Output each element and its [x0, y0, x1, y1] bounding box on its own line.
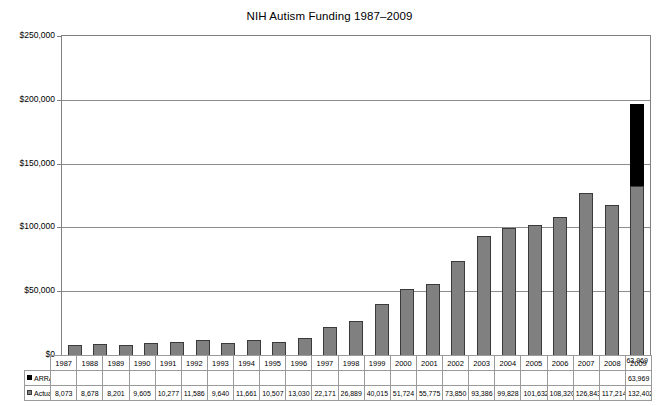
bar-segment-actual[interactable]	[144, 343, 158, 355]
table-cell-arra	[573, 371, 599, 386]
bar-segment-actual[interactable]	[426, 284, 440, 355]
y-axis-tick-label: $150,000	[0, 158, 55, 168]
bar-segment-actual[interactable]	[579, 193, 593, 355]
table-cell-arra	[521, 371, 547, 386]
table-cell-year: 1991	[155, 356, 181, 371]
bar-segment-actual[interactable]	[323, 327, 337, 355]
table-cell-actual: 99,828	[495, 386, 521, 401]
table-cell-actual: 10,507	[260, 386, 286, 401]
bar-slot	[215, 36, 241, 355]
bar-segment-actual[interactable]	[119, 345, 133, 355]
bar-2007[interactable]	[579, 193, 593, 355]
actual-swatch-icon	[27, 390, 32, 395]
bar-segment-actual[interactable]	[93, 344, 107, 355]
bar-1994[interactable]	[247, 340, 261, 355]
chart-container: NIH Autism Funding 1987–2009 63,969 $0$5…	[0, 0, 659, 406]
bar-2000[interactable]	[400, 289, 414, 355]
arra-swatch-icon	[27, 375, 32, 380]
bar-1991[interactable]	[170, 342, 184, 355]
bar-slot	[497, 36, 523, 355]
bar-2001[interactable]	[426, 284, 440, 355]
bar-1993[interactable]	[221, 343, 235, 355]
plot-area: 63,969	[61, 35, 651, 355]
bar-segment-actual[interactable]	[605, 205, 619, 355]
bar-slot	[139, 36, 165, 355]
bar-slot	[318, 36, 344, 355]
bar-segment-actual[interactable]	[221, 343, 235, 355]
bar-slot	[343, 36, 369, 355]
bar-1988[interactable]	[93, 344, 107, 355]
table-cell-arra	[599, 371, 625, 386]
bar-slot	[241, 36, 267, 355]
table-cell-year: 2009	[625, 356, 651, 371]
table-cell-year: 1993	[207, 356, 233, 371]
bar-segment-actual[interactable]	[477, 236, 491, 355]
bar-segment-actual[interactable]	[68, 345, 82, 355]
legend-label-arra: ARRA	[25, 371, 51, 386]
table-cell-arra	[338, 371, 364, 386]
bar-1996[interactable]	[298, 338, 312, 355]
table-cell-arra	[129, 371, 155, 386]
table-cell-actual: 9,640	[207, 386, 233, 401]
table-cell-arra	[51, 371, 77, 386]
table-cell-arra	[155, 371, 181, 386]
bar-segment-actual[interactable]	[553, 217, 567, 355]
bar-1997[interactable]	[323, 327, 337, 355]
bar-2005[interactable]	[528, 225, 542, 355]
bar-segment-actual[interactable]	[247, 340, 261, 355]
bar-segment-actual[interactable]	[375, 304, 389, 355]
bar-segment-arra[interactable]	[630, 104, 644, 186]
table-cell-actual: 9,605	[129, 386, 155, 401]
table-cell-actual: 93,386	[469, 386, 495, 401]
bar-2008[interactable]	[605, 205, 619, 355]
bar-1999[interactable]	[375, 304, 389, 355]
bar-segment-actual[interactable]	[630, 186, 644, 355]
bar-2006[interactable]	[553, 217, 567, 355]
bar-segment-actual[interactable]	[451, 261, 465, 355]
bar-segment-actual[interactable]	[272, 342, 286, 355]
table-cell-year: 2007	[573, 356, 599, 371]
bar-2009[interactable]: 63,969	[630, 104, 644, 355]
bar-1990[interactable]	[144, 343, 158, 355]
bar-1989[interactable]	[119, 345, 133, 355]
bar-2004[interactable]	[502, 228, 516, 355]
table-cell-year: 2000	[390, 356, 416, 371]
actual-label-text: Actual	[34, 390, 51, 397]
table-cell-year: 1994	[234, 356, 260, 371]
bar-slot	[62, 36, 88, 355]
bar-2003[interactable]	[477, 236, 491, 355]
table-row-arra: ARRA 63,969	[25, 371, 652, 386]
table-cell-year: 1989	[103, 356, 129, 371]
bar-segment-actual[interactable]	[170, 342, 184, 355]
bar-segment-actual[interactable]	[196, 340, 210, 355]
table-cell-actual: 11,661	[234, 386, 260, 401]
table-cell-year: 2001	[416, 356, 442, 371]
table-cell-year: 2004	[495, 356, 521, 371]
bar-segment-actual[interactable]	[298, 338, 312, 355]
bar-slot	[420, 36, 446, 355]
bar-slot	[573, 36, 599, 355]
bar-slot	[445, 36, 471, 355]
y-axis-tick-label: $200,000	[0, 94, 55, 104]
table-cell-actual: 55,775	[416, 386, 442, 401]
bar-2002[interactable]	[451, 261, 465, 355]
table-cell-year: 2002	[443, 356, 469, 371]
bar-segment-actual[interactable]	[528, 225, 542, 355]
table-cell-actual: 22,171	[312, 386, 338, 401]
bar-segment-actual[interactable]	[502, 228, 516, 355]
table-cell-arra	[390, 371, 416, 386]
table-cell-arra	[364, 371, 390, 386]
table-cell-year: 1995	[260, 356, 286, 371]
bar-1998[interactable]	[349, 321, 363, 355]
bar-1987[interactable]	[68, 345, 82, 355]
bar-1992[interactable]	[196, 340, 210, 355]
table-cell-actual: 10,277	[155, 386, 181, 401]
bar-slot: 63,969	[624, 36, 650, 355]
bar-segment-actual[interactable]	[349, 321, 363, 355]
bar-slot	[394, 36, 420, 355]
bar-segment-actual[interactable]	[400, 289, 414, 355]
bar-slot	[113, 36, 139, 355]
table-cell-actual: 8,073	[51, 386, 77, 401]
bar-1995[interactable]	[272, 342, 286, 355]
table-cell-actual: 51,724	[390, 386, 416, 401]
